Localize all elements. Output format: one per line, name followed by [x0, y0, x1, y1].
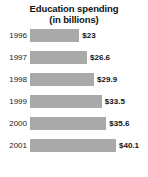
bar-track: $33.5	[30, 95, 148, 108]
bar-row: 1998 $29.9	[0, 73, 148, 86]
bar-1997	[30, 51, 87, 64]
bar-1998	[30, 73, 94, 86]
chart-plot-area: 1996 $23 1997 $26.6 1998 $29.9 1999	[0, 29, 148, 152]
category-label-1998: 1998	[0, 73, 30, 86]
value-label-2001: $40.1	[116, 139, 139, 152]
value-label-1999: $33.5	[102, 95, 125, 108]
bar-2000	[30, 117, 106, 130]
value-label-1996: $23	[79, 29, 95, 42]
category-label-1996: 1996	[0, 29, 30, 42]
bar-row: 2000 $35.6	[0, 117, 148, 130]
education-spending-bar-chart: Education spending (in billions) 1996 $2…	[0, 0, 148, 177]
bar-1996	[30, 29, 79, 42]
category-label-2000: 2000	[0, 117, 30, 130]
bar-row: 1997 $26.6	[0, 51, 148, 64]
value-label-2000: $35.6	[106, 117, 129, 130]
bar-track: $40.1	[30, 139, 148, 152]
bar-track: $29.9	[30, 73, 148, 86]
value-label-1997: $26.6	[87, 51, 110, 64]
bar-row: 2001 $40.1	[0, 139, 148, 152]
chart-title: Education spending (in billions)	[0, 0, 148, 25]
value-label-1998: $29.9	[94, 73, 117, 86]
bar-track: $26.6	[30, 51, 148, 64]
bar-row: 1999 $33.5	[0, 95, 148, 108]
category-label-1997: 1997	[0, 51, 30, 64]
category-label-1999: 1999	[0, 95, 30, 108]
bar-1999	[30, 95, 102, 108]
bar-2001	[30, 139, 116, 152]
category-label-2001: 2001	[0, 139, 30, 152]
bar-track: $35.6	[30, 117, 148, 130]
chart-title-line-1: Education spending	[0, 3, 148, 14]
bar-track: $23	[30, 29, 148, 42]
bar-row: 1996 $23	[0, 29, 148, 42]
chart-title-line-2: (in billions)	[0, 14, 148, 25]
